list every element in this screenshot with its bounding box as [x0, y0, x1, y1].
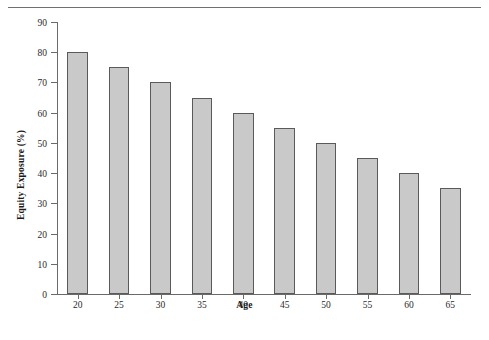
- x-tick: [450, 294, 451, 299]
- y-axis-title-text: Equity Exposure (%): [16, 100, 26, 250]
- bar: [150, 82, 171, 294]
- x-tick: [285, 294, 286, 299]
- x-tick: [326, 294, 327, 299]
- y-tick: 50: [51, 143, 57, 144]
- x-tick: [119, 294, 120, 299]
- x-tick: [78, 294, 79, 299]
- y-tick: 60: [51, 113, 57, 114]
- y-tick: 0: [51, 294, 57, 295]
- y-axis-title: Equity Exposure (%): [16, 0, 26, 100]
- top-rule-divider: [8, 7, 481, 8]
- bar: [399, 173, 420, 294]
- bar: [109, 67, 130, 294]
- y-tick-label: 80: [38, 48, 48, 58]
- y-tick: 20: [51, 234, 57, 235]
- x-axis-title-text: Age: [236, 300, 252, 310]
- y-tick-label: 50: [38, 139, 48, 149]
- plot-area: 0102030405060708090 20253035404550556065: [57, 22, 471, 294]
- x-tick: [368, 294, 369, 299]
- x-tick: [202, 294, 203, 299]
- y-tick-label: 10: [38, 260, 48, 270]
- bar: [192, 98, 213, 294]
- bar: [440, 188, 461, 294]
- y-tick-label: 40: [38, 169, 48, 179]
- y-tick-label: 90: [38, 18, 48, 28]
- bar: [357, 158, 378, 294]
- x-tick: [161, 294, 162, 299]
- bar: [274, 128, 295, 294]
- y-axis-line: [57, 22, 58, 294]
- bar: [316, 143, 337, 294]
- y-tick: 10: [51, 264, 57, 265]
- y-tick: 80: [51, 52, 57, 53]
- y-tick-label: 70: [38, 78, 48, 88]
- y-tick-label: 30: [38, 199, 48, 209]
- y-tick: 70: [51, 82, 57, 83]
- y-tick: 30: [51, 203, 57, 204]
- y-tick-label: 20: [38, 230, 48, 240]
- y-tick-label: 0: [42, 290, 47, 300]
- figure-canvas: Equity Exposure (%) 0102030405060708090 …: [0, 0, 489, 340]
- x-tick: [243, 294, 244, 299]
- y-tick-label: 60: [38, 109, 48, 119]
- bar: [67, 52, 88, 294]
- x-axis-title: Age: [0, 300, 489, 310]
- y-tick: 90: [51, 22, 57, 23]
- x-tick: [409, 294, 410, 299]
- y-tick: 40: [51, 173, 57, 174]
- bar: [233, 113, 254, 294]
